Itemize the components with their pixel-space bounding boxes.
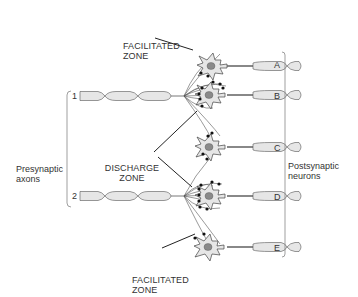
neuron-B-label: B	[274, 91, 280, 101]
neuron-A	[197, 53, 301, 80]
neuron-A-label: A	[274, 60, 280, 70]
facilitated-zone-bottom-label: FACILITATEDZONE	[132, 255, 189, 297]
axon-1-label: 1	[72, 91, 77, 101]
discharge-zone-label: DISCHARGEZONE	[104, 143, 160, 203]
postsynaptic-neurons-label: Postsynapticneurons	[288, 141, 339, 201]
axon-2-label: 2	[72, 191, 77, 201]
neuron-E-label: E	[274, 243, 280, 253]
facilitated-zone-top-label: FACILITATEDZONE	[123, 21, 180, 81]
presynaptic-axons-label: Presynapticaxons	[16, 144, 63, 204]
neuron-C-label: C	[274, 143, 281, 153]
presynaptic-axon-1	[80, 92, 184, 101]
neuron-D-label: D	[274, 192, 281, 202]
postsynaptic-bracket	[282, 52, 285, 257]
presynaptic-bracket	[67, 91, 71, 207]
